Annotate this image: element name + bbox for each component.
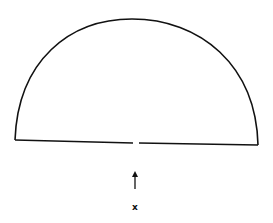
semicircle-arc (15, 19, 258, 145)
baseline-left (15, 140, 133, 143)
x-label: x (132, 202, 138, 212)
semicircle-diagram: x (0, 0, 273, 223)
baseline-right (139, 143, 258, 145)
arrow-up-icon (132, 171, 138, 189)
